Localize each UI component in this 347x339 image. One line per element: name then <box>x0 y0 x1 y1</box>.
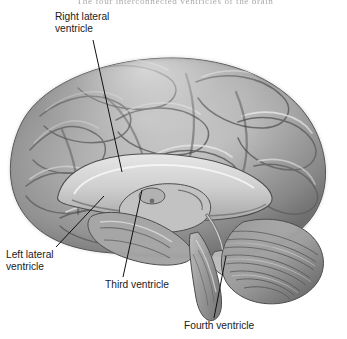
label-right-lateral-ventricle: Right lateral ventricle <box>55 11 109 34</box>
label-left-lateral-ventricle: Left lateral ventricle <box>6 249 54 272</box>
label-fourth-ventricle: Fourth ventricle <box>184 320 254 332</box>
cerebellar-folia <box>221 219 323 304</box>
brain-illustration <box>0 0 347 339</box>
label-third-ventricle: Third ventricle <box>105 279 169 291</box>
cerebellum <box>221 219 323 304</box>
brain-ventricles-figure: The four interconnected ventricles of th… <box>0 0 347 339</box>
